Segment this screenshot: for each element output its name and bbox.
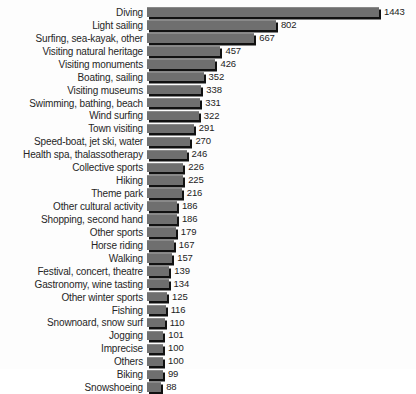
bar-value-label: 186 [182, 201, 198, 211]
bar-area: 110 [147, 317, 416, 330]
bar-group: 88 [147, 382, 177, 393]
bar-value-label: 101 [168, 330, 184, 340]
bar-row: Other cultural activity186 [0, 200, 416, 213]
category-label: Collective sports [0, 162, 147, 173]
bar [147, 59, 215, 69]
bar-group: 139 [147, 265, 190, 276]
bar-group: 186 [147, 214, 197, 225]
bar-row: Health spa, thalassotherapy246 [0, 148, 416, 161]
category-label: Health spa, thalassotherapy [0, 149, 147, 160]
bar [147, 318, 165, 328]
bar-row: Gastronomy, wine tasting134 [0, 278, 416, 291]
bar-row: Surfing, sea-kayak, other667 [0, 32, 416, 45]
bar-group: 225 [147, 175, 204, 186]
bar [147, 7, 379, 17]
category-label: Visiting museums [0, 85, 147, 96]
bar-row: Swimming, bathing, beach331 [0, 97, 416, 110]
bar-area: 457 [147, 45, 416, 58]
bar-row: Boating, sailing352 [0, 71, 416, 84]
bar-group: 179 [147, 226, 196, 237]
bar-group: 270 [147, 136, 211, 147]
bar-row: Others100 [0, 355, 416, 368]
bar-row: Walking157 [0, 252, 416, 265]
bar-row: Diving1443 [0, 6, 416, 19]
bar-row: Festival, concert, theatre139 [0, 265, 416, 278]
bar-value-label: 186 [182, 214, 198, 224]
category-label: Fishing [0, 305, 147, 316]
bar-row: Shopping, second hand186 [0, 213, 416, 226]
bar-value-label: 322 [204, 111, 220, 121]
bar-area: 157 [147, 252, 416, 265]
bar-group: 134 [147, 278, 189, 289]
bar [147, 266, 169, 276]
category-label: Walking [0, 253, 147, 264]
category-label: Boating, sailing [0, 72, 147, 83]
bar [147, 201, 177, 211]
bar-area: 322 [147, 110, 416, 123]
bar-area: 139 [147, 265, 416, 278]
bar-area: 101 [147, 329, 416, 342]
bar-value-label: 100 [168, 343, 184, 353]
bar-group: 100 [147, 343, 184, 354]
bar [147, 137, 190, 147]
bar [147, 72, 204, 82]
bar-group: 167 [147, 239, 194, 250]
bar [147, 20, 276, 30]
bar-value-label: 110 [170, 318, 185, 328]
bar [147, 227, 176, 237]
bar-value-label: 139 [174, 266, 190, 276]
bar-area: 270 [147, 135, 416, 148]
bar-value-label: 457 [225, 46, 241, 56]
bar-row: Visiting monuments426 [0, 58, 416, 71]
bar-value-label: 225 [188, 175, 204, 185]
bar [147, 124, 194, 134]
bar-group: 291 [147, 123, 214, 134]
bar-value-label: 246 [192, 149, 208, 159]
bar [147, 331, 163, 341]
category-label: Visiting monuments [0, 59, 147, 70]
bar [147, 344, 163, 354]
bar-value-label: 426 [220, 59, 236, 69]
bar-row: Collective sports226 [0, 161, 416, 174]
bar-group: 99 [147, 369, 178, 380]
bar-row: Horse riding167 [0, 239, 416, 252]
category-label: Gastronomy, wine tasting [0, 279, 147, 290]
bar [147, 46, 220, 56]
bar-area: 100 [147, 355, 416, 368]
bar-row: Biking99 [0, 368, 416, 381]
bar-value-label: 331 [205, 98, 221, 108]
category-label: Festival, concert, theatre [0, 266, 147, 277]
bar-value-label: 216 [187, 188, 203, 198]
bar-value-label: 157 [177, 253, 193, 263]
bar-area: 216 [147, 187, 416, 200]
bar-group: 110 [147, 317, 185, 328]
category-label: Hiking [0, 175, 147, 186]
bar-row: Other sports179 [0, 226, 416, 239]
bar-group: 338 [147, 84, 222, 95]
bar-rows: Diving1443Light sailing802Surfing, sea-k… [0, 6, 416, 394]
bar-area: 246 [147, 148, 416, 161]
bar-row: Town visiting291 [0, 122, 416, 135]
bar-row: Light sailing802 [0, 19, 416, 32]
bar-value-label: 125 [172, 292, 188, 302]
bar-group: 802 [147, 19, 297, 30]
bar-group: 100 [147, 356, 184, 367]
bar-group: 1443 [147, 7, 405, 18]
bar-group: 426 [147, 58, 236, 69]
category-label: Other sports [0, 227, 147, 238]
bar [147, 279, 169, 289]
bar-area: 100 [147, 342, 416, 355]
bar-row: Hiking225 [0, 174, 416, 187]
bar-group: 322 [147, 110, 219, 121]
bar-area: 352 [147, 71, 416, 84]
bar [147, 305, 166, 315]
bar-row: Jogging101 [0, 329, 416, 342]
bar-area: 331 [147, 97, 416, 110]
bar-area: 426 [147, 58, 416, 71]
bar [147, 85, 201, 95]
bar-row: Speed-boat, jet ski, water270 [0, 135, 416, 148]
bar-value-label: 179 [181, 227, 197, 237]
category-label: Other winter sports [0, 292, 147, 303]
category-label: Others [0, 356, 147, 367]
bar-group: 157 [147, 252, 193, 263]
